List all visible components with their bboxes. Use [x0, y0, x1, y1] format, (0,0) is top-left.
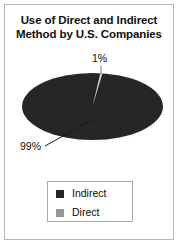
- legend-item-indirect[interactable]: Indirect: [48, 184, 132, 203]
- legend-label-direct: Direct: [72, 207, 99, 218]
- data-label-indirect: 99%: [20, 140, 41, 152]
- data-label-direct: 1%: [92, 52, 107, 64]
- legend-item-direct[interactable]: Direct: [48, 203, 132, 222]
- legend-swatch-indirect: [56, 190, 64, 198]
- legend-label-indirect: Indirect: [72, 188, 106, 199]
- figure-container: Use of Direct and Indirect Method by U.S…: [0, 0, 180, 246]
- chart-legend: Indirect Direct: [47, 181, 133, 222]
- legend-swatch-direct: [56, 209, 64, 217]
